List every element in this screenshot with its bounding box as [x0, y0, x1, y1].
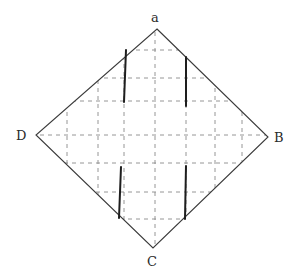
lower-right-cut-line — [185, 166, 186, 219]
lower-left-cut-line — [119, 167, 121, 218]
vertex-label-c: C — [147, 254, 157, 269]
vertex-label-a: a — [151, 10, 159, 25]
solid-cut-lines — [119, 50, 186, 219]
diagram-canvas: a B C D — [0, 0, 297, 277]
vertex-label-d: D — [16, 128, 26, 143]
dashed-grid — [0, 0, 297, 277]
vertex-label-b: B — [274, 130, 284, 145]
diamond-outline — [36, 29, 268, 248]
